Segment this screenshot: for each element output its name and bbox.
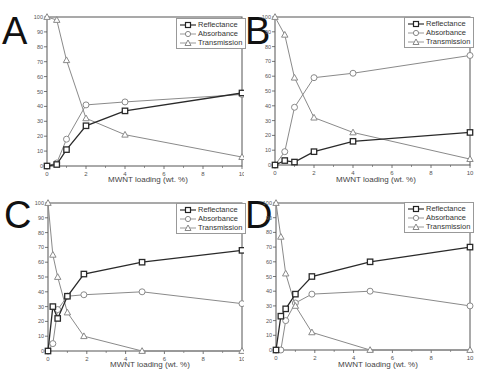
svg-text:8: 8 xyxy=(202,356,206,362)
legend-item-reflectance: Reflectance xyxy=(180,20,242,29)
svg-text:50: 50 xyxy=(38,274,44,280)
svg-text:70: 70 xyxy=(266,244,272,250)
svg-text:0: 0 xyxy=(268,162,271,168)
x-axis-label: MWNT loading (wt. %) xyxy=(338,360,418,369)
square-marker-icon xyxy=(408,20,424,28)
x-axis-label: MWNT loading (wt. %) xyxy=(336,175,416,184)
svg-text:50: 50 xyxy=(265,88,271,94)
svg-text:20: 20 xyxy=(37,133,43,139)
svg-text:90: 90 xyxy=(38,215,44,221)
legend-item-absorbance: Absorbance xyxy=(408,213,470,222)
svg-text:70: 70 xyxy=(265,58,271,64)
triangle-marker-icon xyxy=(180,39,196,47)
legend: Reflectance Absorbance Transmission xyxy=(176,203,246,234)
svg-text:2: 2 xyxy=(313,355,317,361)
svg-text:20: 20 xyxy=(38,318,44,324)
svg-text:10: 10 xyxy=(37,148,43,154)
legend-item-transmission: Transmission xyxy=(408,222,470,231)
svg-text:80: 80 xyxy=(37,44,43,50)
circle-marker-icon xyxy=(180,30,196,38)
svg-text:10: 10 xyxy=(265,147,271,153)
legend: Reflectance Absorbance Transmission xyxy=(404,17,474,48)
svg-text:8: 8 xyxy=(201,171,205,177)
svg-text:8: 8 xyxy=(429,170,433,176)
svg-text:50: 50 xyxy=(37,89,43,95)
svg-text:0: 0 xyxy=(45,171,49,177)
svg-text:2: 2 xyxy=(84,171,88,177)
svg-text:90: 90 xyxy=(37,29,43,35)
svg-text:100: 100 xyxy=(262,14,271,20)
svg-text:30: 30 xyxy=(37,118,43,124)
svg-text:0: 0 xyxy=(269,347,272,353)
x-axis-label: MWNT loading (wt. %) xyxy=(110,360,190,369)
legend: Reflectance Absorbance Transmission xyxy=(176,18,246,49)
triangle-marker-icon xyxy=(180,224,196,232)
svg-text:0: 0 xyxy=(40,163,43,169)
square-marker-icon xyxy=(180,206,196,214)
svg-text:40: 40 xyxy=(265,103,271,109)
svg-text:10: 10 xyxy=(467,170,474,176)
panel-d: D 01020304050607080901000246810 MWNT loa… xyxy=(244,194,488,388)
legend-item-absorbance: Absorbance xyxy=(180,29,242,38)
svg-text:40: 40 xyxy=(38,289,44,295)
svg-text:60: 60 xyxy=(265,73,271,79)
svg-text:10: 10 xyxy=(38,333,44,339)
svg-text:90: 90 xyxy=(266,215,272,221)
svg-text:0: 0 xyxy=(274,355,278,361)
svg-text:0: 0 xyxy=(41,348,44,354)
svg-text:10: 10 xyxy=(467,355,474,361)
svg-text:2: 2 xyxy=(85,356,89,362)
svg-text:100: 100 xyxy=(263,200,272,206)
legend-item-reflectance: Reflectance xyxy=(180,205,242,214)
svg-text:50: 50 xyxy=(266,274,272,280)
square-marker-icon xyxy=(408,205,424,213)
legend-item-transmission: Transmission xyxy=(180,38,242,47)
svg-text:100: 100 xyxy=(34,14,43,20)
legend-item-absorbance: Absorbance xyxy=(180,214,242,223)
svg-text:70: 70 xyxy=(37,59,43,65)
panel-c: C 01020304050607080901000246810 MWNT loa… xyxy=(0,194,244,388)
svg-text:60: 60 xyxy=(266,259,272,265)
circle-marker-icon xyxy=(408,214,424,222)
svg-text:30: 30 xyxy=(265,118,271,124)
svg-text:0: 0 xyxy=(46,356,50,362)
legend-item-transmission: Transmission xyxy=(408,37,470,46)
svg-text:30: 30 xyxy=(38,304,44,310)
triangle-marker-icon xyxy=(408,38,424,46)
svg-text:60: 60 xyxy=(38,259,44,265)
panel-b: B 01020304050607080901000246810 MWNT loa… xyxy=(244,0,488,194)
svg-text:80: 80 xyxy=(266,229,272,235)
svg-text:80: 80 xyxy=(38,230,44,236)
svg-text:90: 90 xyxy=(265,29,271,35)
svg-text:40: 40 xyxy=(266,288,272,294)
legend-item-reflectance: Reflectance xyxy=(408,19,470,28)
svg-text:40: 40 xyxy=(37,103,43,109)
svg-text:70: 70 xyxy=(38,244,44,250)
svg-text:30: 30 xyxy=(266,303,272,309)
svg-text:8: 8 xyxy=(430,355,434,361)
circle-marker-icon xyxy=(408,29,424,37)
svg-text:0: 0 xyxy=(273,170,277,176)
legend-item-transmission: Transmission xyxy=(180,223,242,232)
svg-text:60: 60 xyxy=(37,74,43,80)
legend-item-absorbance: Absorbance xyxy=(408,28,470,37)
svg-text:2: 2 xyxy=(312,170,316,176)
svg-text:20: 20 xyxy=(266,318,272,324)
legend-item-reflectance: Reflectance xyxy=(408,204,470,213)
x-axis-label: MWNT loading (wt. %) xyxy=(108,175,188,184)
svg-text:10: 10 xyxy=(266,332,272,338)
svg-text:100: 100 xyxy=(35,200,44,206)
svg-text:20: 20 xyxy=(265,132,271,138)
triangle-marker-icon xyxy=(408,223,424,231)
circle-marker-icon xyxy=(180,215,196,223)
panel-a: A 01020304050607080901000246810 MWNT loa… xyxy=(0,0,244,194)
square-marker-icon xyxy=(180,21,196,29)
svg-text:80: 80 xyxy=(265,44,271,50)
legend: Reflectance Absorbance Transmission xyxy=(404,202,474,233)
